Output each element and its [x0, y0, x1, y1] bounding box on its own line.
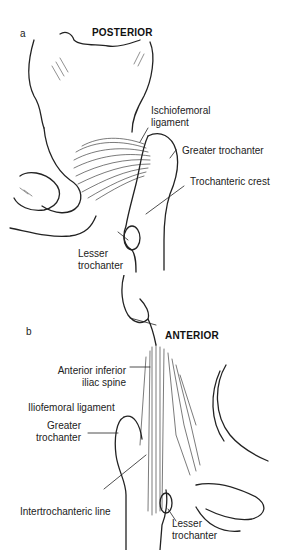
label-ischiofemoral-ligament-line1: Ischiofemoral [151, 105, 210, 117]
label-greater-trochanter-anterior-line2: trochanter [36, 432, 81, 444]
label-aiis-line1: Anterior inferior [58, 365, 126, 377]
label-lesser-trochanter-posterior-line2: trochanter [78, 260, 123, 272]
label-trochanteric-crest: Trochanteric crest [190, 176, 270, 188]
label-lesser-trochanter-posterior-line1: Lesser [78, 248, 108, 260]
view-title-posterior: POSTERIOR [92, 27, 153, 38]
label-lesser-trochanter-anterior-line1: Lesser [172, 518, 202, 530]
label-greater-trochanter-anterior-line1: Greater [47, 420, 81, 432]
label-lesser-trochanter-anterior-line2: trochanter [172, 530, 217, 542]
label-iliofemoral-ligament: Iliofemoral ligament [28, 402, 115, 414]
label-aiis-line2: iliac spine [82, 377, 126, 389]
view-title-anterior: ANTERIOR [165, 330, 219, 341]
label-ischiofemoral-ligament-line2: ligament [151, 117, 189, 129]
panel-b-anterior: b ANTERIOR Anterior inferior iliac spine… [0, 275, 285, 550]
panel-a-posterior: a POSTERIOR Ischiofemoral ligament Great… [0, 0, 285, 275]
label-intertrochanteric-line: Intertrochanteric line [20, 506, 111, 518]
panel-letter-a: a [20, 28, 26, 39]
posterior-hip-illustration [0, 0, 285, 275]
panel-letter-b: b [26, 326, 32, 337]
label-greater-trochanter-posterior: Greater trochanter [182, 145, 264, 157]
